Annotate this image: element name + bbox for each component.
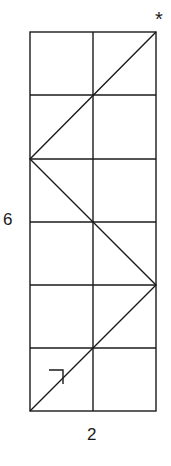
arrowhead-icon — [49, 370, 63, 384]
end-marker-star: * — [155, 8, 163, 31]
height-label: 6 — [3, 210, 12, 230]
grid-diagram — [0, 0, 171, 466]
width-label: 2 — [87, 425, 96, 445]
